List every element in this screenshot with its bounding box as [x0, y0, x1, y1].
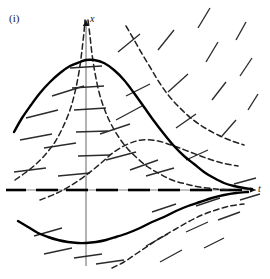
slope-field-dash [212, 82, 226, 100]
figure-panel: (i) x t [0, 0, 270, 279]
panel-label: (i) [9, 12, 19, 24]
y-axis-label: x [90, 13, 94, 24]
slope-field-dash [218, 212, 240, 220]
slope-field-dash [240, 58, 252, 76]
slope-field-dash [248, 94, 258, 110]
slope-field-dash [146, 234, 168, 246]
direction-field-plot [0, 0, 270, 279]
slope-field-dash [160, 250, 182, 262]
solution-curve-upper-dashed-steep [15, 20, 85, 180]
slope-field-dash [106, 152, 136, 160]
slope-field-dash [186, 222, 208, 232]
slope-field-dash [58, 173, 90, 176]
slope-field-dash [78, 155, 110, 156]
slope-field-dash [44, 248, 72, 254]
slope-field-dash [76, 131, 108, 132]
slope-field-dash [222, 120, 236, 136]
solution-curve-dashed-right-upper [126, 26, 244, 145]
slope-field-dash [204, 238, 224, 248]
slope-field-dash [168, 74, 188, 92]
slope-field-dash [72, 86, 104, 88]
slope-field-dash [236, 22, 246, 40]
solid-solution-curves-group [14, 60, 252, 243]
slope-field-dash [198, 8, 210, 28]
slope-field-dash [152, 204, 176, 212]
slope-field-dash [206, 42, 218, 62]
slope-field-dash [158, 30, 174, 50]
x-axis-label: t [258, 183, 261, 194]
slope-field-dash [74, 108, 106, 110]
slope-field-dash [234, 178, 256, 184]
slope-field-dash [116, 106, 142, 120]
solution-curve-dashed-lower [112, 204, 244, 268]
slope-field-dash [74, 254, 102, 258]
slope-field-dash [100, 124, 130, 134]
solution-curve-upper-dashed-steep-right [88, 20, 230, 190]
slope-field-dash [20, 134, 52, 140]
slope-field-dash [130, 160, 158, 170]
slope-field-dash [176, 114, 196, 128]
slope-field-dash [26, 110, 58, 118]
slope-field-dash [44, 143, 76, 148]
slope-field-dash [96, 260, 124, 264]
slope-field-dash [240, 194, 260, 200]
